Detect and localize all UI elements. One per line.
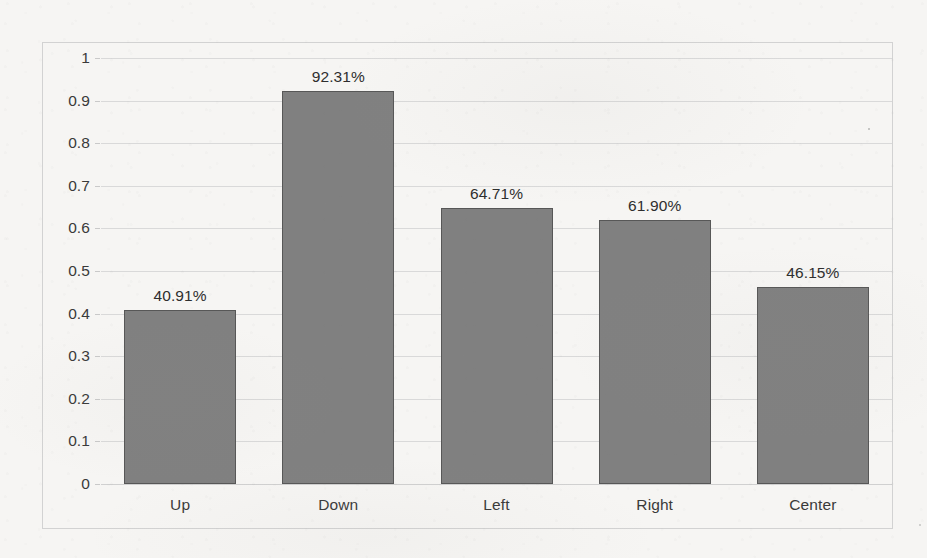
bar-value-label-up: 40.91% — [154, 287, 207, 305]
x-axis-label-up: Up — [170, 496, 190, 514]
y-tick-mark — [95, 101, 100, 102]
y-axis-tick-label: 0.7 — [68, 177, 90, 195]
x-axis-label-right: Right — [636, 496, 673, 514]
y-axis-tick-label: 0.5 — [68, 262, 90, 280]
x-axis-label-center: Center — [789, 496, 836, 514]
y-axis-tick-label: 0.1 — [68, 432, 90, 450]
bar-slot-left: 64.71% — [441, 58, 553, 484]
y-tick-mark — [95, 441, 100, 442]
bar-down[interactable] — [282, 91, 394, 484]
scan-speck — [919, 524, 921, 526]
y-axis-tick-label: 0.9 — [68, 92, 90, 110]
plot-area: 40.91%92.31%64.71%61.90%46.15% — [101, 58, 892, 484]
y-tick-mark — [95, 271, 100, 272]
y-tick-mark — [95, 399, 100, 400]
x-axis-label-down: Down — [318, 496, 358, 514]
x-axis-label-left: Left — [483, 496, 509, 514]
scan-speck — [868, 128, 870, 130]
bar-slot-center: 46.15% — [757, 58, 869, 484]
y-tick-mark — [95, 228, 100, 229]
bar-value-label-down: 92.31% — [312, 68, 365, 86]
y-axis-tick-label: 0 — [81, 475, 90, 493]
chart-frame: 00.10.20.30.40.50.60.70.80.91 40.91%92.3… — [42, 42, 893, 529]
bar-up[interactable] — [124, 310, 236, 484]
bar-left[interactable] — [441, 208, 553, 484]
y-tick-mark — [95, 58, 100, 59]
y-axis-tick-label: 0.6 — [68, 219, 90, 237]
y-tick-mark — [95, 314, 100, 315]
y-tick-mark — [95, 186, 100, 187]
y-axis-tick-label: 0.8 — [68, 134, 90, 152]
bar-slot-down: 92.31% — [282, 58, 394, 484]
y-axis-tick-label: 0.4 — [68, 305, 90, 323]
bar-value-label-center: 46.15% — [786, 264, 839, 282]
y-axis-tick-label: 0.3 — [68, 347, 90, 365]
bar-value-label-left: 64.71% — [470, 185, 523, 203]
bar-slot-up: 40.91% — [124, 58, 236, 484]
y-tick-mark — [95, 143, 100, 144]
y-axis-tick-label: 0.2 — [68, 390, 90, 408]
bar-right[interactable] — [599, 220, 711, 484]
bar-slot-right: 61.90% — [599, 58, 711, 484]
bar-center[interactable] — [757, 287, 869, 484]
y-tick-mark — [95, 484, 100, 485]
x-axis-category-labels: UpDownLeftRightCenter — [101, 484, 892, 530]
y-tick-mark — [95, 356, 100, 357]
scan-speck — [866, 312, 869, 314]
y-axis-tick-label: 1 — [81, 49, 90, 67]
bar-value-label-right: 61.90% — [628, 197, 681, 215]
